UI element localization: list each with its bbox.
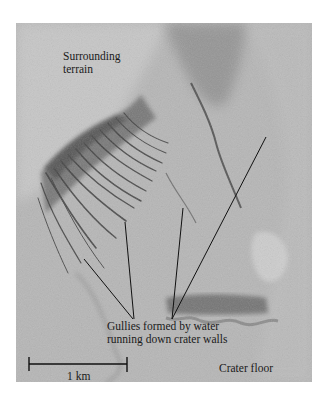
label-surrounding-terrain: Surrounding terrain — [63, 50, 121, 76]
scale-bar-label: 1 km — [67, 370, 90, 383]
label-crater-floor: Crater floor — [219, 362, 273, 375]
label-surrounding-terrain-line1: Surrounding — [63, 50, 121, 63]
label-gullies: Gullies formed by water running down cra… — [107, 320, 227, 346]
label-gullies-line2: running down crater walls — [107, 333, 227, 346]
label-gullies-line1: Gullies formed by water — [107, 320, 227, 333]
label-surrounding-terrain-line2: terrain — [63, 63, 121, 76]
